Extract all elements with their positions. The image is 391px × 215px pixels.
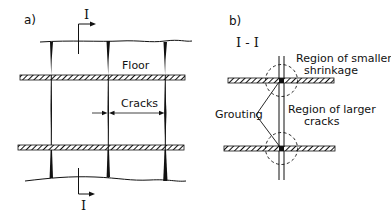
panel-b-label: b): [229, 14, 241, 28]
crack-2: [107, 41, 111, 178]
floor-slab-upper-section: [228, 78, 334, 83]
smaller-shrinkage-label-2: shrinkage: [304, 64, 358, 77]
floor-slab-upper: [20, 75, 185, 80]
arrow-right-icon: [102, 111, 108, 115]
grouting-label: Grouting: [215, 108, 263, 121]
crack-3: [163, 42, 167, 181]
section-label-bottom: I: [81, 198, 86, 213]
panel-a-label: a): [24, 13, 36, 27]
arrow-right-icon: [90, 22, 96, 27]
floor-label: Floor: [122, 59, 150, 72]
section-i-i-label: I - I: [236, 35, 259, 50]
section-mark-top: I: [79, 7, 97, 54]
panel-a: a): [18, 7, 192, 213]
crack-spacing-dimension: [92, 111, 165, 115]
wall-bottom-edge: [25, 177, 186, 181]
grout-joint-upper: [279, 78, 284, 83]
diagram-canvas: a): [0, 0, 391, 215]
arrow-right-icon: [89, 192, 95, 197]
wall-top-edge: [40, 40, 192, 42]
arrow-right-icon: [159, 111, 165, 115]
wall-section: [279, 56, 284, 180]
floor-slab-lower: [18, 145, 184, 150]
arrow-left-icon: [109, 111, 115, 115]
cracks-label: Cracks: [121, 97, 158, 110]
crack-1: [50, 42, 53, 178]
larger-cracks-label-2: cracks: [304, 115, 340, 128]
section-mark-bottom: I: [79, 168, 96, 213]
section-label-top: I: [84, 7, 89, 22]
panel-b: b) I - I Region of smaller shrinkage Reg…: [215, 14, 391, 180]
wall-cracks-diagram: a): [0, 0, 391, 215]
